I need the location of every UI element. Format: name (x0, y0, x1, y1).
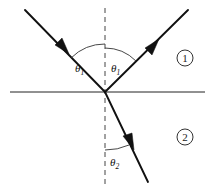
angle-label-theta1-reflection: θ1 (111, 62, 120, 77)
refracted-ray-arrowhead-icon (123, 133, 134, 150)
angle-arc-theta1-incidence (71, 44, 105, 58)
angle-label-theta2-refraction: θ2 (110, 156, 119, 171)
angle-arc-theta2-refraction (105, 145, 129, 150)
theta2-refraction-subscript: 2 (115, 162, 119, 171)
optics-diagram: θ1 θ1 θ2 1 2 (0, 0, 213, 192)
reflection-refraction-figure: θ1 θ1 θ2 1 2 (0, 0, 213, 192)
incident-ray-arrowhead-icon (55, 38, 69, 54)
theta1-reflection-subscript: 1 (116, 68, 120, 77)
reflected-ray-arrowhead-icon (145, 39, 159, 55)
reflected-ray-line (105, 10, 188, 92)
angle-arc-theta1-reflection (105, 48, 136, 61)
theta1-incidence-subscript: 1 (80, 68, 84, 77)
region-1-label: 1 (182, 52, 188, 64)
angle-label-theta1-incidence: θ1 (75, 62, 84, 77)
region-2-label: 2 (182, 131, 188, 143)
